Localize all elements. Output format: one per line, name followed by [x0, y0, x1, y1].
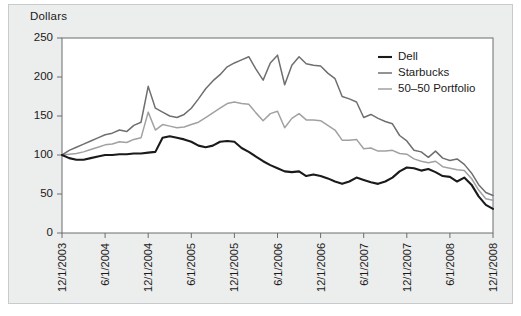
chart-figure: Dollars 050100150200250 12/1/20036/1/200…	[0, 0, 521, 316]
plot-area-wrapper: 050100150200250 12/1/20036/1/200412/1/20…	[0, 0, 521, 316]
y-tick-label: 0	[47, 226, 53, 238]
x-tick-label: 12/1/2007	[401, 243, 413, 292]
legend-label-3: 50–50 Portfolio	[398, 82, 475, 94]
y-tick-label: 250	[34, 31, 53, 43]
y-tick-label: 150	[34, 109, 53, 121]
x-tick-label: 12/1/2004	[142, 243, 154, 292]
y-tick-label: 100	[34, 148, 53, 160]
x-tick-label: 6/1/2007	[358, 243, 370, 286]
x-tick-label: 12/1/2005	[228, 243, 240, 292]
x-tick-label: 6/1/2008	[444, 243, 456, 286]
x-tick-label: 12/1/2008	[487, 243, 499, 292]
x-tick-label: 12/1/2006	[315, 243, 327, 292]
y-axis-ticks: 050100150200250	[34, 31, 62, 238]
x-tick-label: 12/1/2003	[56, 243, 68, 292]
x-axis-ticks: 12/1/20036/1/200412/1/20046/1/200512/1/2…	[56, 233, 499, 292]
x-tick-label: 6/1/2004	[99, 243, 111, 286]
line-chart-svg: 050100150200250 12/1/20036/1/200412/1/20…	[0, 0, 521, 316]
legend-label-1: Dell	[398, 50, 418, 62]
y-tick-label: 200	[34, 70, 53, 82]
legend-label-2: Starbucks	[398, 66, 449, 78]
x-tick-label: 6/1/2006	[272, 243, 284, 286]
x-tick-label: 6/1/2005	[185, 243, 197, 286]
y-tick-label: 50	[40, 187, 53, 199]
